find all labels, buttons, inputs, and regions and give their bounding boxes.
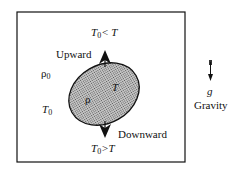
ambient-temperature-label: T0 <box>42 104 52 117</box>
parcel-density-label: ρ <box>85 94 91 105</box>
gravity-arrow-icon <box>208 60 213 81</box>
gravity-label: Gravity <box>194 100 228 111</box>
parcel-temperature-label: T <box>112 82 118 93</box>
air-parcel <box>57 50 150 137</box>
ambient-density-label: ρ0 <box>41 68 51 81</box>
top-condition-label: T0< T <box>91 27 117 40</box>
bottom-condition-label: T0>T <box>91 143 115 156</box>
gravity-symbol: g <box>207 86 213 97</box>
downward-label: Downward <box>118 129 167 140</box>
upward-label: Upward <box>56 49 91 60</box>
